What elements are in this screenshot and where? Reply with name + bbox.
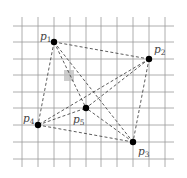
edge-p2-p5: [86, 59, 149, 108]
edge-p2-p3: [133, 59, 149, 142]
vertex-p2: [146, 56, 152, 62]
edge-p1-p4: [38, 42, 54, 125]
vertex-label-p3: p3: [138, 145, 150, 159]
vertex-label-p5: p5: [73, 113, 85, 127]
complete-graph-diagram: p1p2p3p4p5: [0, 0, 187, 178]
vertex-labels: p1p2p3p4p5: [23, 30, 166, 159]
vertex-p5: [83, 105, 89, 111]
vertex-label-p1: p1: [40, 30, 52, 44]
vertex-p3: [130, 139, 136, 145]
vertex-p1: [51, 39, 57, 45]
vertex-label-p2: p2: [154, 43, 166, 57]
edge-p1-p2: [54, 42, 149, 59]
vertex-p4: [35, 122, 41, 128]
edge-p3-p4: [38, 125, 133, 142]
vertex-label-p4: p4: [23, 112, 35, 126]
